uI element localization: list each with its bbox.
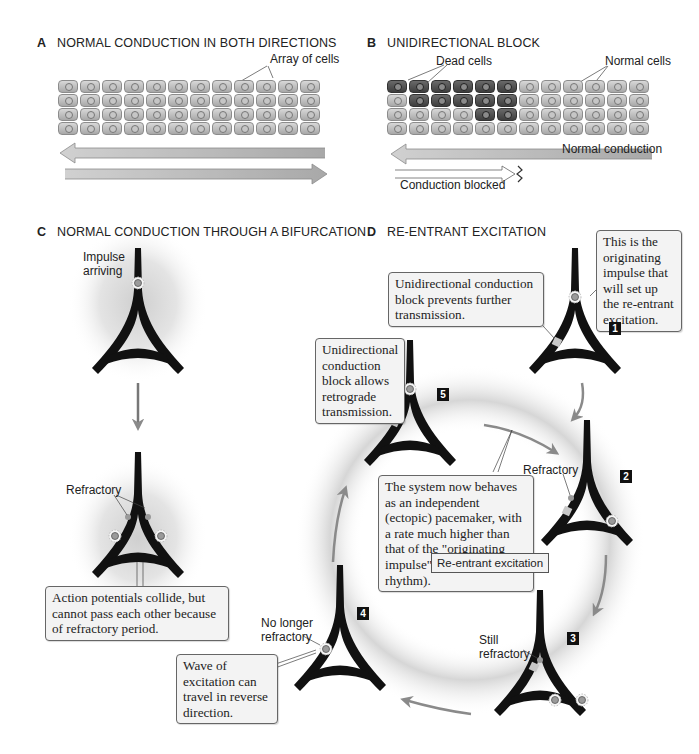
normal-cell (212, 122, 232, 135)
normal-cell (629, 80, 649, 93)
dead-cell (409, 80, 429, 93)
normal-cell (256, 122, 276, 135)
dead-cell (475, 94, 495, 107)
normal-cell (431, 122, 451, 135)
normal-cell (256, 80, 276, 93)
conduction-blocked-label: Conduction blocked (400, 178, 505, 192)
dead-cell (497, 108, 517, 121)
normal-cell (629, 108, 649, 121)
normal-cell (585, 80, 605, 93)
normal-cell (541, 122, 561, 135)
step-badge-3: 3 (567, 632, 579, 645)
panel-d-letter: D (367, 225, 387, 239)
normal-cell (190, 80, 210, 93)
normal-cell (278, 108, 298, 121)
normal-cell (102, 80, 122, 93)
normal-cell (475, 122, 495, 135)
normal-cell (212, 108, 232, 121)
normal-cell (80, 80, 100, 93)
normal-cell (234, 94, 254, 107)
normal-cell (124, 80, 144, 93)
originating-impulse-callout: This is the originating impulse that wil… (596, 230, 682, 332)
normal-cell (278, 94, 298, 107)
normal-cell (607, 122, 627, 135)
normal-cell (563, 122, 583, 135)
normal-cell (300, 94, 320, 107)
normal-cell (234, 80, 254, 93)
panel-c-letter: C (37, 225, 57, 239)
normal-cell (190, 122, 210, 135)
normal-cell (541, 80, 561, 93)
panel-d-title: DRE-ENTRANT EXCITATION (367, 225, 546, 239)
normal-cell (629, 94, 649, 107)
normal-cell (409, 108, 429, 121)
normal-cell (168, 108, 188, 121)
normal-cell (541, 94, 561, 107)
normal-cell (409, 122, 429, 135)
step-badge-4: 4 (357, 607, 369, 620)
dead-cell (497, 80, 517, 93)
dead-cell (409, 94, 429, 107)
normal-cell (519, 80, 539, 93)
normal-cell (387, 108, 407, 121)
panel-c-title: CNORMAL CONDUCTION THROUGH A BIFURCATION (37, 225, 366, 239)
normal-cell (607, 80, 627, 93)
normal-cell (124, 122, 144, 135)
normal-cell (58, 108, 78, 121)
normal-cell (190, 94, 210, 107)
block-prevents-callout: Unidirectional conduction block prevents… (388, 272, 544, 327)
normal-cell (278, 80, 298, 93)
normal-cell (497, 122, 517, 135)
normal-conduction-label: Normal conduction (562, 142, 662, 156)
dead-cell (431, 94, 451, 107)
normal-cell (387, 122, 407, 135)
normal-cell (519, 122, 539, 135)
dead-cell (387, 80, 407, 93)
normal-cell (453, 122, 473, 135)
normal-cell (585, 108, 605, 121)
step-badge-2: 2 (620, 470, 632, 483)
normal-cell (212, 80, 232, 93)
normal-cell (102, 94, 122, 107)
block-allows-callout: Unidirectional conduction block allows r… (315, 338, 405, 424)
dead-cells-label: Dead cells (436, 54, 492, 68)
system-now-callout: The system now behaves as an independent… (378, 475, 534, 592)
normal-cell (300, 122, 320, 135)
refractory-label-d: Refractory (523, 463, 578, 477)
panel-b-letter: B (367, 36, 387, 50)
normal-cell (124, 94, 144, 107)
normal-cell (607, 94, 627, 107)
normal-cell (300, 80, 320, 93)
normal-cell (168, 94, 188, 107)
normal-cell (58, 94, 78, 107)
dead-cell (453, 80, 473, 93)
dead-cell (497, 94, 517, 107)
array-of-cells-label: Array of cells (270, 52, 339, 66)
normal-cell (541, 108, 561, 121)
panel-b-title-text: UNIDIRECTIONAL BLOCK (387, 36, 540, 50)
normal-cell (80, 122, 100, 135)
normal-cell (585, 94, 605, 107)
normal-cell (146, 108, 166, 121)
step-badge-5: 5 (437, 388, 449, 401)
normal-cell (629, 122, 649, 135)
normal-cell (278, 122, 298, 135)
normal-cell (585, 122, 605, 135)
normal-cell (563, 94, 583, 107)
re-entrant-excitation-label: Re-entrant excitation (431, 553, 549, 573)
panel-d-title-text: RE-ENTRANT EXCITATION (387, 225, 546, 239)
normal-cell (146, 80, 166, 93)
normal-cell (519, 94, 539, 107)
normal-cell (607, 108, 627, 121)
panel-c-title-text: NORMAL CONDUCTION THROUGH A BIFURCATION (57, 225, 366, 239)
normal-cell (124, 108, 144, 121)
normal-cell (256, 94, 276, 107)
normal-cell (431, 108, 451, 121)
normal-cell (168, 122, 188, 135)
refractory-label-c: Refractory (66, 483, 121, 497)
step-badge-1: 1 (609, 322, 621, 335)
panel-a-title: ANORMAL CONDUCTION IN BOTH DIRECTIONS (37, 36, 337, 50)
normal-cell (168, 80, 188, 93)
normal-cell (563, 108, 583, 121)
normal-cell (387, 94, 407, 107)
